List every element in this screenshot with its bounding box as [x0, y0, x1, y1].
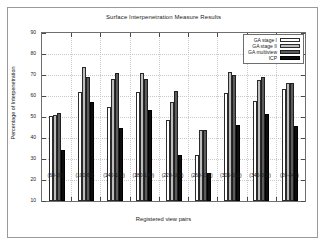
figure: Surface Interpenetration Measure Results…: [0, 0, 327, 247]
y-tick-mark: [301, 180, 305, 181]
y-tick-label: 80: [8, 50, 36, 56]
x-tick-mark: [276, 197, 277, 201]
bar: [148, 110, 152, 201]
bar-group: [77, 67, 95, 201]
bar-group: [48, 113, 66, 201]
bar: [265, 114, 269, 201]
x-tick-mark: [188, 33, 189, 37]
x-tick-mark: [130, 33, 131, 37]
y-tick-mark: [42, 201, 46, 202]
x-tick-mark: [71, 33, 72, 37]
x-tick-mark: [71, 197, 72, 201]
legend-label: ICP: [269, 55, 277, 61]
y-tick-mark: [42, 180, 46, 181]
y-tick-mark: [42, 138, 46, 139]
y-tick-label: 90: [8, 29, 36, 35]
bar-group: [223, 72, 241, 201]
bar-group: [106, 73, 124, 201]
x-tick-mark: [247, 197, 248, 201]
y-tick-mark: [42, 33, 46, 34]
x-axis-label: Registered view pairs: [0, 216, 327, 222]
x-tick-mark: [217, 33, 218, 37]
bar: [90, 102, 94, 201]
bar-group: [194, 130, 212, 201]
y-tick-mark: [42, 75, 46, 76]
x-tick-mark: [159, 197, 160, 201]
y-tick-mark: [301, 75, 305, 76]
bar: [119, 128, 123, 201]
y-tick-mark: [301, 96, 305, 97]
x-tick-mark: [130, 197, 131, 201]
bar-group: [252, 77, 270, 201]
x-tick-mark: [217, 197, 218, 201]
bar-group: [281, 83, 299, 201]
y-tick-label: 50: [8, 113, 36, 119]
y-tick-label: 40: [8, 134, 36, 140]
x-tick-mark: [100, 33, 101, 37]
bar: [178, 155, 182, 201]
y-tick-mark: [301, 159, 305, 160]
x-tick-mark: [100, 197, 101, 201]
x-tick-mark: [159, 33, 160, 37]
legend-swatch-icon: [280, 56, 300, 60]
legend-item: ICP: [248, 55, 300, 61]
legend-swatch-icon: [280, 44, 300, 48]
y-tick-mark: [42, 54, 46, 55]
y-tick-mark: [42, 159, 46, 160]
x-tick-label: (20-340): [263, 172, 315, 178]
y-tick-mark: [301, 117, 305, 118]
x-tick-mark: [188, 197, 189, 201]
bar: [236, 125, 240, 201]
y-tick-mark: [42, 96, 46, 97]
legend-swatch-icon: [280, 38, 300, 42]
bar: [294, 126, 298, 201]
y-tick-mark: [42, 117, 46, 118]
bar-group: [165, 91, 183, 201]
legend: GA stage I GA stage II GA multiview ICP: [243, 34, 304, 64]
y-tick-label: 70: [8, 71, 36, 77]
legend-swatch-icon: [280, 50, 300, 54]
y-tick-label: 30: [8, 155, 36, 161]
chart-title: Surface Interpenetration Measure Results: [0, 14, 327, 20]
y-tick-mark: [301, 201, 305, 202]
y-tick-label: 10: [8, 197, 36, 203]
bar-group: [135, 73, 153, 201]
y-tick-mark: [301, 138, 305, 139]
y-tick-label: 60: [8, 92, 36, 98]
